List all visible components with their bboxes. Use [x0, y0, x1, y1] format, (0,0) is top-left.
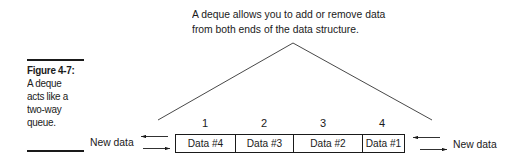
index-label: 2 [254, 117, 274, 129]
deque-cell: Data #2 [297, 134, 360, 153]
deque-cell: Data #1 [365, 134, 403, 153]
index-label: 3 [313, 117, 333, 129]
index-label: 1 [195, 117, 215, 129]
index-label: 4 [372, 117, 392, 129]
left-new-data-label: New data [90, 136, 134, 148]
right-new-data-label: New data [453, 138, 497, 150]
deque-cell: Data #3 [238, 134, 290, 153]
deque-cell: Data #4 [178, 134, 232, 153]
bracket-lines [158, 43, 432, 120]
